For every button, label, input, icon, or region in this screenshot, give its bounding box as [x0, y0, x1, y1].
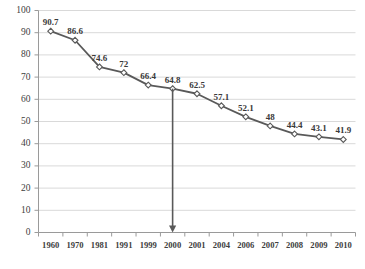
- y-axis-tick-label: 60: [0, 94, 31, 104]
- data-point-value-label: 72: [110, 59, 138, 69]
- y-axis-tick-label: 70: [0, 72, 31, 82]
- data-point-marker: [267, 123, 273, 129]
- data-point-marker: [340, 137, 346, 143]
- line-chart: 0102030405060708090100 19601970198119911…: [0, 0, 365, 269]
- y-axis-tick-label: 100: [0, 5, 31, 15]
- data-point-marker: [194, 91, 200, 97]
- data-point-value-label: 62.5: [183, 80, 211, 90]
- y-axis-tick-label: 50: [0, 116, 31, 126]
- year-2000-dropline-arrow-head: [169, 226, 176, 233]
- data-point-marker: [218, 103, 224, 109]
- data-point-value-label: 86.6: [61, 26, 89, 36]
- data-point-value-label: 41.9: [329, 125, 357, 135]
- y-axis-tick-label: 80: [0, 49, 31, 59]
- x-axis-tick-label: 2010: [329, 240, 357, 250]
- chart-canvas: [0, 0, 365, 269]
- data-point-value-label: 57.1: [207, 92, 235, 102]
- y-axis-tick-label: 0: [0, 227, 31, 237]
- y-axis-tick-label: 10: [0, 205, 31, 215]
- data-point-marker: [316, 134, 322, 140]
- y-axis-tick-label: 20: [0, 183, 31, 193]
- y-axis-tick-label: 90: [0, 27, 31, 37]
- data-point-marker: [292, 131, 298, 137]
- y-axis-tick-label: 30: [0, 160, 31, 170]
- data-point-marker: [243, 114, 249, 120]
- y-axis-tick-label: 40: [0, 138, 31, 148]
